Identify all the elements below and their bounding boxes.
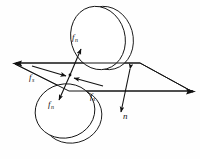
lower-disk bbox=[29, 78, 107, 150]
diagram-canvas: fn fn fs fs n bbox=[0, 0, 200, 159]
label-shear-force-right: fs bbox=[90, 91, 96, 102]
shear-force-right-arrow bbox=[74, 78, 103, 86]
label-normal-direction: n bbox=[123, 111, 128, 121]
contact-force-diagram: fn fn fs fs n bbox=[0, 0, 200, 159]
